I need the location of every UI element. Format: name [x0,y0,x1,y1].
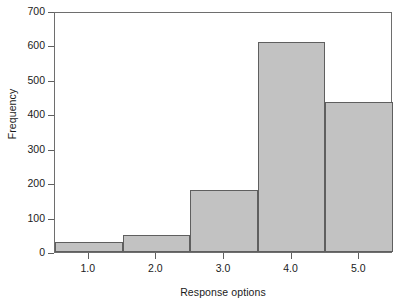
x-axis-tick [155,253,156,259]
x-axis-tick-label: 2.0 [125,262,185,274]
y-axis-tick-label: 300 [0,143,45,155]
plot-area [54,12,392,253]
y-axis-tick-label: 0 [0,246,45,258]
y-axis-tick-label: 200 [0,177,45,189]
y-axis-tick [48,253,54,254]
histogram-bar [325,102,393,252]
y-axis-tick-label: 400 [0,108,45,120]
x-axis-tick [358,253,359,259]
x-axis-tick [223,253,224,259]
x-axis-tick-label: 1.0 [58,262,118,274]
histogram-bar [123,235,191,252]
bar-series [55,13,391,252]
x-axis-tick-label: 4.0 [261,262,321,274]
y-axis-tick-label: 600 [0,39,45,51]
histogram-figure: Frequency 0100200300400500600700 1.02.03… [0,0,399,306]
y-axis-tick-label: 100 [0,212,45,224]
y-axis-tick-label: 700 [0,5,45,17]
x-axis-tick-label: 5.0 [328,262,388,274]
x-axis-tick [291,253,292,259]
x-axis-title: Response options [54,286,392,298]
x-axis-tick-label: 3.0 [193,262,253,274]
x-axis-tick [88,253,89,259]
y-axis-tick-label: 500 [0,74,45,86]
histogram-bar [190,190,258,252]
histogram-bar [55,242,123,252]
histogram-bar [258,42,326,252]
